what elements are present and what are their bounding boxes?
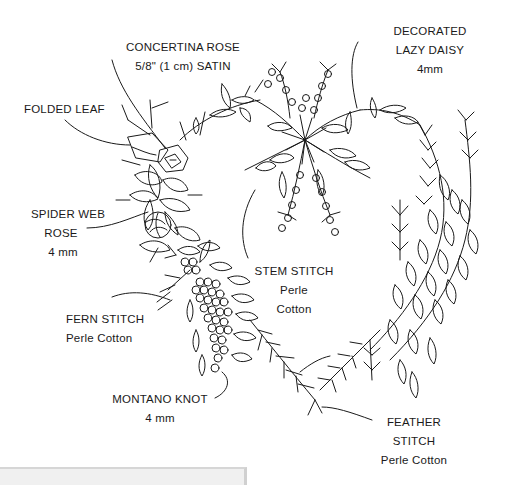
label-feather-stitch: FEATHER STITCH Perle Cotton [372, 413, 456, 470]
montano-knot-cluster [157, 240, 258, 376]
bottom-panel-edge [0, 467, 247, 485]
label-spider-web-rose: SPIDER WEB ROSE 4 mm [22, 205, 114, 262]
folded-leaf-title: FOLDED LEAF [24, 100, 116, 119]
decorated-lazy-daisy-star [245, 62, 370, 236]
top-right-arc-leaves [346, 98, 420, 134]
stem-stitch-thread2: Cotton [252, 300, 336, 319]
embroidery-diagram: CONCERTINA ROSE 5/8" (1 cm) SATIN DECORA… [0, 0, 507, 485]
lazy-daisy-size: 4mm [384, 60, 476, 79]
feather-stitch-line2: STITCH [372, 432, 456, 451]
stem-stitch-title: STEM STITCH [252, 262, 336, 281]
feather-stitch-bottom [250, 320, 380, 415]
label-stem-stitch: STEM STITCH Perle Cotton [252, 262, 336, 319]
lazy-daisy-line1: DECORATED [384, 22, 476, 41]
concertina-rose-title: CONCERTINA ROSE [112, 38, 254, 57]
spider-web-rose-line2: ROSE [8, 224, 114, 243]
top-left-arc-leaves [180, 80, 263, 140]
label-decorated-lazy-daisy: DECORATED LAZY DAISY 4mm [384, 22, 476, 79]
fern-stitch-title: FERN STITCH [66, 310, 158, 329]
feather-stitch-line1: FEATHER [372, 413, 456, 432]
left-rose-cluster [116, 100, 205, 262]
stem-stitch-thread1: Perle [252, 281, 336, 300]
label-montano-knot: MONTANO KNOT 4 mm [104, 390, 216, 428]
label-concertina-rose: CONCERTINA ROSE 5/8" (1 cm) SATIN [112, 38, 254, 76]
label-fern-stitch: FERN STITCH Perle Cotton [66, 310, 158, 348]
montano-knot-size: 4 mm [104, 409, 216, 428]
label-folded-leaf: FOLDED LEAF [24, 100, 116, 119]
spider-web-rose-size: 4 mm [12, 243, 114, 262]
concertina-rose-size: 5/8" (1 cm) SATIN [112, 57, 254, 76]
lazy-daisy-line2: LAZY DAISY [384, 41, 476, 60]
spider-web-rose-line1: SPIDER WEB [22, 205, 114, 224]
feather-stitch-thread: Perle Cotton [372, 451, 456, 470]
right-side-leaves [364, 110, 478, 398]
montano-knot-title: MONTANO KNOT [104, 390, 216, 409]
fern-stitch-thread: Perle Cotton [66, 329, 158, 348]
